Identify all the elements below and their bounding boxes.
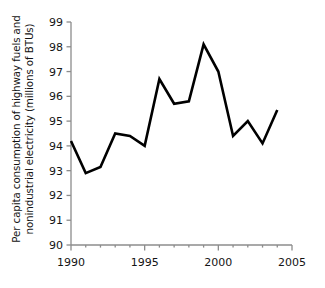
y-tick-label: 99 xyxy=(49,16,63,29)
chart-axes xyxy=(71,22,292,245)
y-tick-label: 96 xyxy=(49,90,63,103)
x-axis-ticks: 1990199520002005 xyxy=(57,245,306,269)
y-axis-ticks: 90919293949596979899 xyxy=(49,16,71,252)
y-tick-label: 95 xyxy=(49,115,63,128)
y-tick-label: 97 xyxy=(49,66,63,79)
x-tick-label: 2000 xyxy=(204,256,232,269)
y-tick-label: 91 xyxy=(49,214,63,227)
y-tick-label: 94 xyxy=(49,140,63,153)
data-series-line xyxy=(71,44,277,173)
y-tick-label: 98 xyxy=(49,41,63,54)
chart-plot-area: 90919293949596979899 1990199520002005 xyxy=(0,0,325,288)
x-tick-label: 2005 xyxy=(278,256,306,269)
x-tick-label: 1995 xyxy=(131,256,159,269)
y-tick-label: 93 xyxy=(49,165,63,178)
line-chart-figure: Per capita consumption of highway fuels … xyxy=(0,0,325,288)
series-polyline xyxy=(71,44,277,173)
x-tick-label: 1990 xyxy=(57,256,85,269)
y-tick-label: 90 xyxy=(49,239,63,252)
y-tick-label: 92 xyxy=(49,189,63,202)
